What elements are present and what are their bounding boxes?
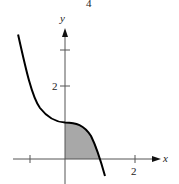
x-tick-label-2: 2 [131, 165, 137, 177]
function-plot: y x 2 2 [0, 0, 179, 184]
x-axis-label: x [162, 152, 168, 164]
x-axis-arrow-icon [152, 156, 161, 162]
y-tick-label-2: 2 [52, 80, 58, 92]
y-axis-arrow-icon [62, 28, 68, 37]
y-axis-label: y [59, 12, 65, 24]
